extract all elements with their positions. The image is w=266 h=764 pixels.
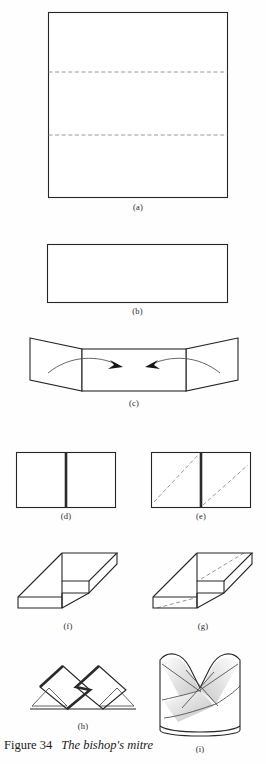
step-e-diagram xyxy=(151,452,251,508)
upper-slab-top-g xyxy=(197,553,252,581)
lower-slab-depth-g xyxy=(197,593,224,608)
figure-title: The bishop's mitre xyxy=(61,738,153,752)
step-label-b: (b) xyxy=(47,307,228,316)
paper-square xyxy=(49,13,228,198)
folded-rectangle xyxy=(48,245,228,303)
step-label-i: (i) xyxy=(156,745,244,754)
upper-slab-top-f xyxy=(62,553,117,581)
step-b-diagram xyxy=(47,244,228,303)
figure-caption: Figure 34The bishop's mitre xyxy=(4,738,153,753)
step-i-diagram xyxy=(156,646,244,744)
step-label-c: (c) xyxy=(28,399,240,408)
step-h-diagram xyxy=(27,660,139,720)
step-d-diagram xyxy=(16,452,116,508)
step-g-diagram xyxy=(149,548,257,620)
step-c-diagram xyxy=(28,333,240,395)
figure-page: (a) (b) (c) xyxy=(0,0,266,764)
figure-number: Figure 34 xyxy=(4,738,52,752)
left-flap-face xyxy=(30,338,82,391)
step-label-g: (g) xyxy=(149,622,257,631)
upper-slab-front-f xyxy=(62,581,89,593)
step-label-h: (h) xyxy=(27,722,139,731)
step-label-a: (a) xyxy=(48,203,228,212)
centre-panel-face xyxy=(82,349,186,391)
right-flap-face xyxy=(186,338,238,391)
step-f-diagram xyxy=(14,548,122,620)
lower-slab-top-f xyxy=(18,597,62,608)
step-a-diagram xyxy=(48,12,228,198)
lower-slab-depth-f xyxy=(62,593,89,608)
upper-slab-front-g xyxy=(197,581,224,593)
step-label-f: (f) xyxy=(14,622,122,631)
lower-slab-top-g xyxy=(153,597,197,608)
step-label-e: (e) xyxy=(151,512,251,521)
step-label-d: (d) xyxy=(16,512,116,521)
